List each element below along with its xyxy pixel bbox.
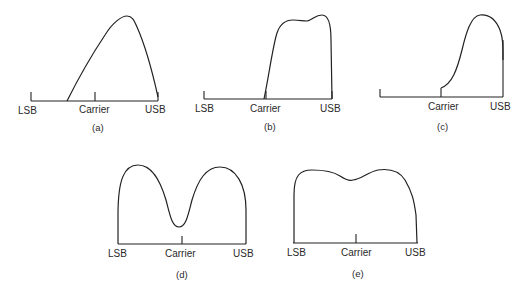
usb-label: USB (490, 101, 511, 112)
caption-e: (e) (352, 268, 364, 279)
carrier-label: Carrier (341, 247, 372, 258)
panel-e: LSB Carrier USB (e) (287, 169, 426, 279)
usb-label: USB (145, 104, 166, 115)
lsb-label: LSB (195, 103, 214, 114)
panel-b: LSB Carrier USB (b) (195, 15, 341, 132)
lsb-label: LSB (287, 247, 306, 258)
carrier-label: Carrier (250, 103, 281, 114)
carrier-label: Carrier (165, 248, 196, 259)
spectrum-curve (294, 169, 417, 243)
sideband-spectra-figure: LSB Carrier USB (a) LSB Carrier USB (b) … (0, 0, 525, 290)
caption-b: (b) (264, 121, 276, 132)
spectrum-curve (67, 16, 158, 101)
usb-label: USB (405, 247, 426, 258)
lsb-label: LSB (108, 248, 127, 259)
usb-label: USB (320, 103, 341, 114)
usb-label: USB (233, 248, 254, 259)
caption-d: (d) (176, 269, 188, 280)
panel-a: LSB Carrier USB (a) (18, 16, 166, 133)
carrier-label: Carrier (428, 101, 459, 112)
caption-c: (c) (437, 121, 448, 132)
spectrum-curve (441, 15, 503, 88)
caption-a: (a) (92, 122, 104, 133)
spectrum-curve (264, 15, 332, 99)
lsb-label: LSB (18, 105, 37, 116)
carrier-label: Carrier (79, 104, 110, 115)
panel-c: Carrier USB (c) (380, 15, 511, 132)
spectrum-curve (118, 165, 246, 244)
panel-d: LSB Carrier USB (d) (108, 165, 254, 280)
